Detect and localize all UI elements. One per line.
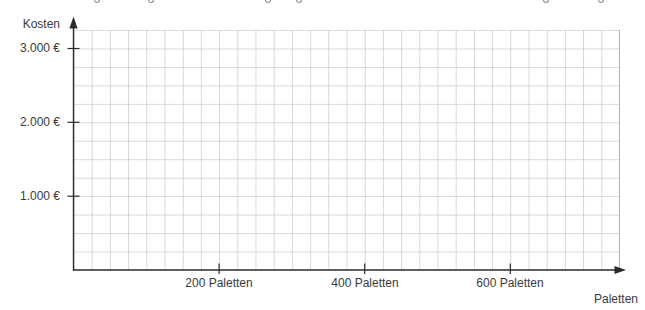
y-tick-label-1000: 1.000 € <box>0 189 60 203</box>
x-tick-label-400: 400 Paletten <box>310 276 420 290</box>
x-axis-arrow-icon <box>615 266 627 274</box>
x-axis-title: Paletten <box>538 292 638 306</box>
x-tick-label-200: 200 Paletten <box>164 276 274 290</box>
y-tick-label-2000: 2.000 € <box>0 115 60 129</box>
grid-area <box>74 30 620 270</box>
y-tick-label-3000: 3.000 € <box>0 41 60 55</box>
coordinate-grid <box>0 0 645 310</box>
x-tick-label-600: 600 Paletten <box>455 276 565 290</box>
chart-canvas: Kosten Paletten 3.000 € 2.000 € 1.000 € … <box>0 0 645 310</box>
y-axis-arrow-icon <box>69 17 77 29</box>
y-axis-title: Kosten <box>0 17 60 31</box>
